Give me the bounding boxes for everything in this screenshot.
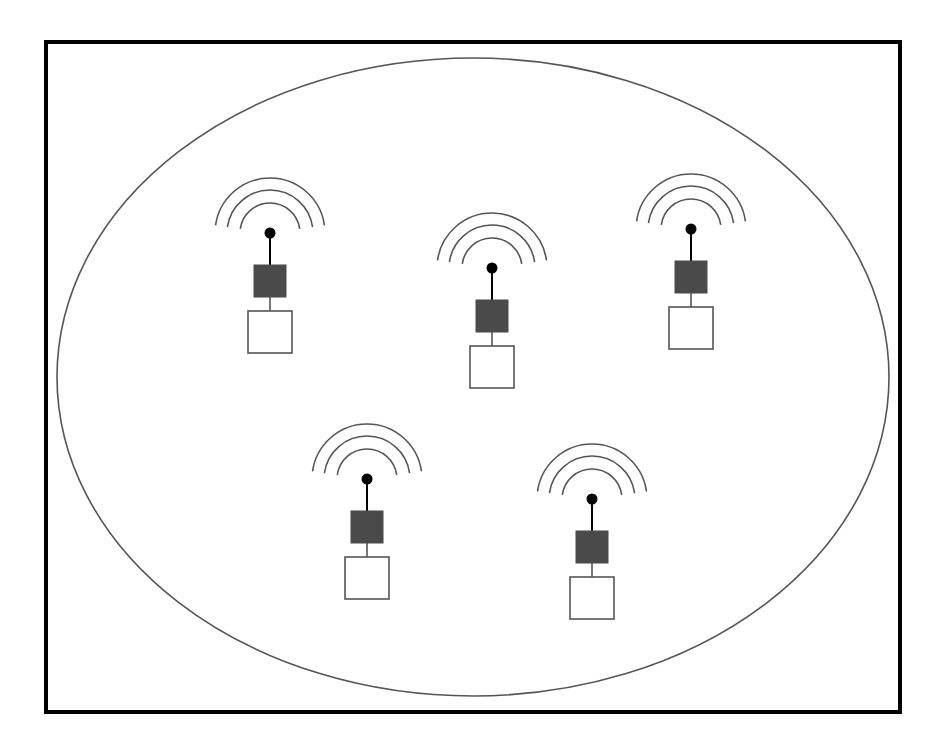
base-unit-box[interactable] — [470, 346, 514, 388]
antenna-dot-icon — [587, 494, 598, 505]
base-unit-box[interactable] — [345, 557, 389, 599]
radio-module-box[interactable] — [254, 265, 286, 297]
radio-module-box[interactable] — [576, 531, 608, 563]
radio-module-box[interactable] — [476, 300, 508, 332]
network-topology-diagram — [0, 0, 943, 747]
base-unit-box[interactable] — [669, 307, 713, 349]
radio-module-box[interactable] — [351, 511, 383, 543]
base-unit-box[interactable] — [570, 577, 614, 619]
antenna-dot-icon — [686, 224, 697, 235]
antenna-dot-icon — [265, 228, 276, 239]
diagram-canvas — [0, 0, 943, 747]
antenna-dot-icon — [487, 263, 498, 274]
antenna-dot-icon — [362, 474, 373, 485]
radio-module-box[interactable] — [675, 261, 707, 293]
base-unit-box[interactable] — [248, 311, 292, 353]
